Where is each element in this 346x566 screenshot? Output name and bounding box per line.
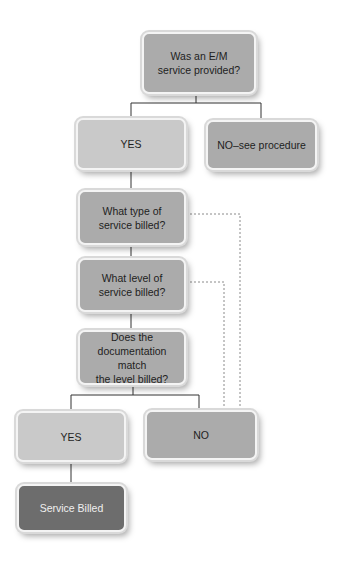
node-label: What level of service billed?: [99, 271, 166, 299]
node-was-em-service-provided: Was an E/M service provided?: [142, 32, 256, 94]
node-label: YES: [120, 137, 141, 151]
flowchart-canvas: Was an E/M service provided? YES NO–see …: [0, 0, 346, 566]
node-no-bottom: NO: [145, 410, 257, 460]
node-documentation-match: Does the documentation match the level b…: [78, 330, 186, 385]
node-label: Was an E/M service provided?: [158, 49, 240, 77]
node-what-type-of-service: What type of service billed?: [78, 190, 186, 245]
node-label: YES: [60, 430, 81, 444]
node-label: Does the documentation match the level b…: [84, 330, 180, 386]
node-yes-bottom: YES: [16, 411, 126, 462]
node-no-see-procedure: NO–see procedure: [206, 120, 317, 170]
dashed-connectors: [190, 214, 240, 410]
node-label: What type of service billed?: [99, 204, 166, 232]
node-label: NO: [193, 428, 209, 442]
node-yes-top: YES: [76, 118, 186, 170]
node-service-billed: Service Billed: [17, 484, 126, 532]
node-what-level-of-service: What level of service billed?: [78, 258, 186, 312]
node-label: NO–see procedure: [217, 138, 306, 152]
node-label: Service Billed: [40, 501, 104, 515]
